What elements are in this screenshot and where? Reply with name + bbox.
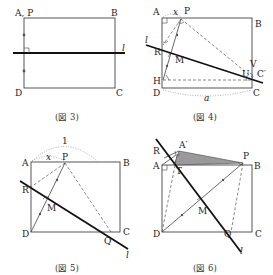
label-l: l [126,250,129,260]
equal-mark [23,70,26,73]
label-c: C [255,229,262,239]
arc-x [163,14,181,17]
caption-fig5: (図 5) [55,263,79,273]
label-b: B [254,161,261,171]
angle-mark-p [178,22,184,24]
label-m: M [198,206,207,216]
line-l [20,181,128,249]
segment-pr [31,163,65,187]
label-p: P [243,151,249,161]
label-d: D [22,229,29,239]
equal-mark [176,34,178,36]
label-m: M [175,55,184,65]
label-c: C [116,88,123,98]
label-u: U [242,69,250,79]
equal-mark [222,179,224,181]
figure-3: A, P B D C l (図 3) [13,8,125,122]
caption-fig4: (図 4) [193,112,217,122]
label-x: x [173,7,178,17]
label-a-prime: A′ [178,140,188,150]
rectangle-abcd [162,18,252,88]
caption-fig6: (図 6) [193,263,217,273]
label-b: B [111,8,118,18]
label-r: R [22,185,29,195]
label-r: R [154,47,161,57]
caption-fig3: (図 3) [55,112,79,122]
label-r: R [153,146,160,156]
label-d: D [153,229,160,239]
figure-6: A′ R A T P B M D Q C l (図 6) [152,139,262,273]
label-q: Q [104,236,111,246]
equal-mark [181,214,183,216]
label-m: M [47,203,56,213]
label-h: H [153,76,161,86]
label-c: C [123,227,130,237]
segment-pq [65,163,111,232]
label-p: P [184,6,190,16]
label-d: D [153,88,160,98]
label-l: l [145,35,148,45]
segment-pq [231,163,243,232]
shaded-triangle [174,151,243,165]
label-a-p: A, P [14,8,33,18]
right-angle-mark [162,18,167,23]
label-1: 1 [62,136,68,146]
label-t: T [176,166,182,176]
segment-da-prime [162,155,177,232]
angle-mark-h [166,75,169,80]
right-angle-mark-a [162,165,167,170]
equal-mark [39,213,41,215]
figure-4: A x P B l R M V C′ U H D C a (図 4) [145,6,266,122]
label-l: l [122,43,125,53]
label-c-prime: C′ [257,69,266,79]
label-a-length: a [204,93,209,103]
geometry-figures: A, P B D C l (図 3) A x [0,0,273,275]
label-b: B [255,19,262,29]
label-x: x [46,152,51,162]
label-c: C [253,88,260,98]
label-a: A [152,7,160,17]
figure-5: 1 A x P B R M D Q C l (図 5) [20,136,130,273]
segment-ph [163,19,181,80]
label-l: l [240,246,243,256]
label-a: A [21,158,29,168]
label-q: Q [224,229,231,239]
label-d: D [15,88,22,98]
segment-dp [162,163,243,232]
equal-mark [166,65,168,67]
equal-mark [23,34,26,37]
equal-mark [56,179,58,181]
label-a: A [152,161,160,171]
label-p: P [62,152,68,162]
label-b: B [123,158,130,168]
label-v: V [249,59,257,69]
